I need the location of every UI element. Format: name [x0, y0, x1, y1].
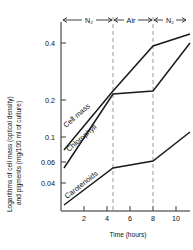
x-tick-label-2: 2 [82, 214, 86, 223]
series-label-carotenoids: Carotenoids [63, 169, 100, 201]
series-label-cell-mass: Cell mass [61, 101, 92, 129]
phase-label-third: N₂ [166, 16, 174, 25]
growth-curve-chart: Logarithms of cell mass (optical density… [0, 0, 193, 250]
x-axis-title: Time (hours) [109, 231, 146, 239]
y-axis-title: Logarithms of cell mass (optical density… [6, 96, 23, 212]
y-tick-label-0-2: 0.2 [45, 96, 55, 105]
y-tick-label-0-06: 0.06 [41, 158, 55, 167]
y-axis-ticks [61, 43, 66, 183]
y-tick-label-0-4: 0.4 [45, 39, 55, 48]
x-tick-label-4: 4 [105, 214, 109, 223]
x-tick-label-8: 8 [151, 214, 155, 223]
y-axis-title-line2: and pigments (mg/100 ml of culture) [15, 101, 23, 205]
series-line-carotenoids [64, 132, 190, 205]
y-axis-title-line1: Logarithms of cell mass (optical density… [6, 96, 14, 212]
chart-figure: Logarithms of cell mass (optical density… [0, 0, 193, 250]
x-axis-ticks [84, 206, 176, 211]
y-tick-label-0-04: 0.04 [41, 179, 55, 188]
phase-label-second: Air [127, 16, 136, 25]
x-tick-label-6: 6 [128, 214, 132, 223]
phase-label-first: N₂ [85, 16, 93, 25]
y-tick-label-0-1: 0.1 [45, 133, 55, 142]
x-tick-label-10: 10 [172, 214, 180, 223]
